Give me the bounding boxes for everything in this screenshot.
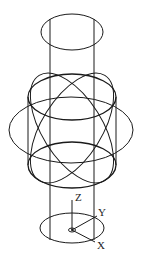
- x-axis-label: X: [97, 239, 105, 251]
- y-axis-line: [72, 216, 97, 230]
- z-axis-label: Z: [75, 191, 82, 203]
- tilted-ellipse-left: [14, 60, 131, 197]
- tilted-ellipse-right: [14, 60, 131, 197]
- origin-dot: [71, 229, 73, 231]
- x-axis-line: [72, 230, 95, 242]
- band-bottom-ellipse: [28, 142, 116, 188]
- drawing-canvas: Z Y X: [0, 0, 147, 263]
- y-axis-label: Y: [98, 206, 106, 218]
